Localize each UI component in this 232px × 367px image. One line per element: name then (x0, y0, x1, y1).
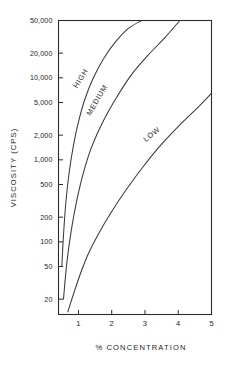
y-axis-title: VISCOSITY (CPS) (9, 128, 18, 208)
curve-high (62, 21, 142, 267)
x-axis-tick-marks (78, 310, 178, 315)
data-curves (62, 21, 212, 312)
curve-label-low: LOW (142, 125, 162, 144)
curve-label-high: HIGH (71, 67, 90, 90)
y-tick-label: 2,000 (34, 131, 53, 140)
y-tick-label: 200 (40, 213, 52, 222)
curve-medium (63, 21, 179, 300)
y-tick-label: 20 (44, 295, 52, 304)
x-tick-label: 4 (176, 319, 180, 328)
x-axis-tick-labels: 12345 (76, 319, 213, 328)
y-tick-label: 50,000 (30, 16, 53, 25)
y-tick-label: 10,000 (30, 73, 53, 82)
x-tick-label: 5 (209, 319, 213, 328)
viscosity-concentration-chart: 50,00020,00010,0005,0002,0001,0005002001… (0, 0, 232, 367)
y-tick-label: 5,000 (34, 98, 53, 107)
x-tick-label: 1 (76, 319, 80, 328)
y-tick-label: 500 (40, 180, 52, 189)
curve-inline-labels: HIGHMEDIUMLOW (71, 67, 162, 144)
y-tick-label: 1,000 (34, 155, 53, 164)
y-tick-label: 20,000 (30, 49, 53, 58)
x-tick-label: 3 (143, 319, 147, 328)
x-tick-label: 2 (110, 319, 114, 328)
y-tick-label: 100 (40, 237, 52, 246)
chart-svg: 50,00020,00010,0005,0002,0001,0005002001… (0, 0, 232, 367)
x-axis-title: % CONCENTRATION (95, 343, 186, 352)
curve-low (68, 93, 212, 312)
curve-label-medium: MEDIUM (84, 83, 109, 117)
y-axis-tick-labels: 50,00020,00010,0005,0002,0001,0005002001… (30, 16, 53, 304)
y-tick-label: 50 (44, 262, 52, 271)
